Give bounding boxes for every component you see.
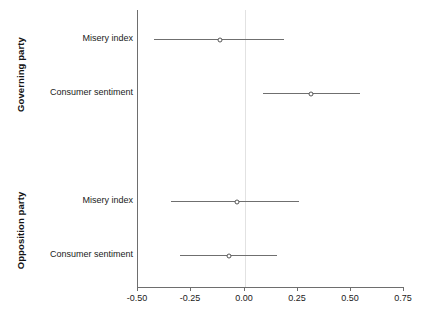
- row-label-slot-1: Consumer sentiment: [0, 87, 133, 99]
- x-tick-label-4: 0.50: [341, 293, 359, 303]
- point-estimate-marker: [235, 199, 240, 204]
- x-tick-label-5: 0.75: [394, 293, 412, 303]
- y-axis-line: [137, 10, 138, 288]
- row-label-misery-index-opposition: Misery index: [82, 195, 133, 205]
- row-label-consumer-sentiment-opposition: Consumer sentiment: [50, 249, 133, 259]
- row-label-consumer-sentiment-governing: Consumer sentiment: [50, 87, 133, 97]
- coefficient-plot-figure: Governing party Opposition party Misery …: [0, 0, 428, 321]
- x-tick-5: [403, 287, 404, 291]
- x-tick-label-3: 0.25: [288, 293, 306, 303]
- x-tick-3: [297, 287, 298, 291]
- zero-reference-line: [245, 10, 246, 287]
- point-estimate-marker: [217, 37, 222, 42]
- x-tick-1: [190, 287, 191, 291]
- x-tick-2: [244, 287, 245, 291]
- x-tick-label-0: -0.50: [127, 293, 148, 303]
- x-tick-label-1: -0.25: [180, 293, 201, 303]
- x-tick-label-2: 0.00: [235, 293, 253, 303]
- row-label-slot-2: Misery index: [0, 195, 133, 207]
- point-estimate-marker: [226, 253, 231, 258]
- row-label-slot-0: Misery index: [0, 33, 133, 45]
- row-label-misery-index-governing: Misery index: [82, 33, 133, 43]
- x-tick-4: [350, 287, 351, 291]
- row-label-slot-3: Consumer sentiment: [0, 249, 133, 261]
- x-tick-0: [137, 287, 138, 291]
- x-axis-line: [137, 287, 403, 288]
- point-estimate-marker: [309, 91, 314, 96]
